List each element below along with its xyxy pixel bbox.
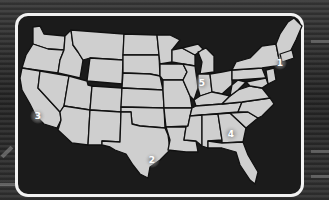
us-map: 1 2 3 4 5 [0,0,329,200]
marker-5[interactable]: 5 [193,74,211,92]
state-new-mexico [88,110,121,145]
marker-1[interactable]: 1 [273,56,287,70]
marker-5-label: 5 [199,78,205,88]
marker-2[interactable]: 2 [144,152,160,168]
state-colorado [90,86,122,112]
state-ohio [210,70,232,94]
state-iowa [160,64,187,80]
state-new-york [232,44,280,70]
marker-4[interactable]: 4 [222,125,240,143]
marker-3-label: 3 [35,111,41,121]
states-layer [20,18,302,184]
state-arizona [58,106,90,145]
state-florida [208,141,258,184]
marker-1-label: 1 [277,58,283,68]
state-kansas [121,88,164,108]
marker-3[interactable]: 3 [30,108,46,124]
marker-2-label: 2 [149,155,155,165]
marker-4-label: 4 [228,129,234,139]
state-wyoming [87,58,123,84]
state-north-dakota [123,34,159,55]
state-nebraska [122,73,163,90]
